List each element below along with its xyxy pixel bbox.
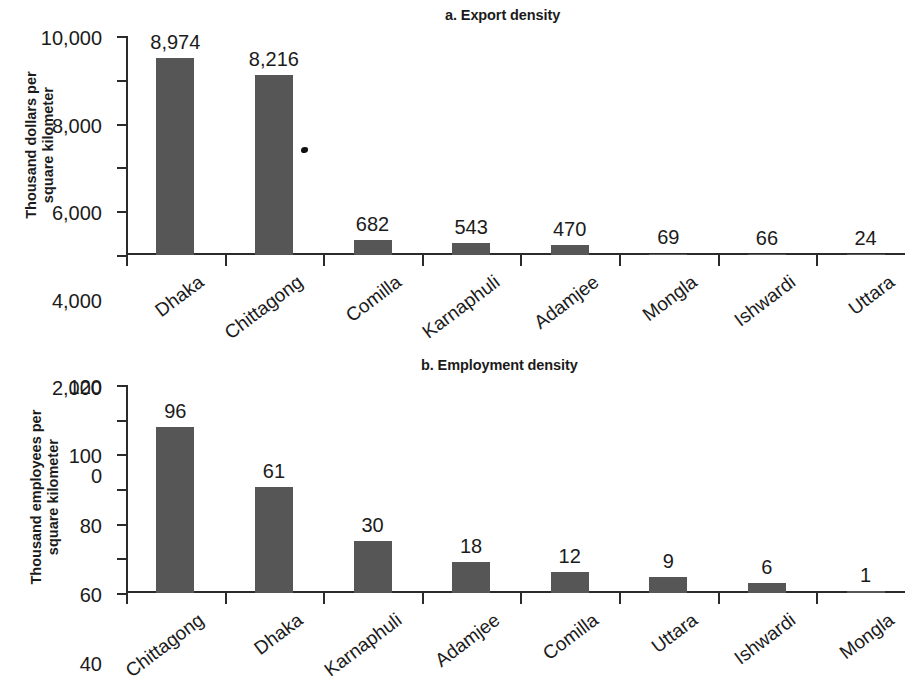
bar [255,75,293,255]
x-tick [422,255,424,266]
x-tick [422,593,424,604]
chart-panel-export-density: a. Export density Thousand dollars per s… [0,0,911,345]
x-tick [520,255,522,266]
bar-value-label: 8,974 [150,31,200,54]
y-tick: 60 [117,489,126,491]
print-artifact-speck [301,147,308,153]
y-tick: 6,000 [117,124,126,126]
panel-a-title: a. Export density [445,7,560,23]
panel-b-y-axis-caption-line1: Thousand employees per [28,410,44,585]
y-tick-label: 8,000 [52,114,102,137]
y-tick: 4,000 [117,167,126,169]
y-tick: 2,000 [117,211,126,213]
x-tick [323,255,325,266]
x-category-label: Karnaphuli [419,271,505,343]
bar [255,487,293,593]
x-category-label: Uttara [647,609,702,658]
bar-value-label: 543 [454,216,487,239]
y-tick-label: 80 [80,514,102,537]
panel-b-y-axis-caption: Thousand employees per square kilometer [28,387,62,607]
y-tick: 0 [117,593,126,595]
x-tick [619,255,621,266]
y-tick: 120 [117,385,126,387]
bar [452,562,490,593]
bar [156,427,194,593]
x-tick [718,255,720,266]
x-tick [225,593,227,604]
y-tick: 8,000 [117,80,126,82]
x-category-label: Mongla [836,609,899,664]
bar-value-label: 470 [553,218,586,241]
bar-value-label: 6 [761,556,772,579]
y-tick: 20 [117,558,126,560]
y-tick: 80 [117,454,126,456]
bar-value-label: 682 [356,213,389,236]
x-category-label: Comilla [539,609,603,665]
panel-b-plot-area: 020406080100120 9661301812961 Chittagong… [126,385,905,593]
bar [847,254,885,256]
panel-b-y-axis-line [126,385,128,593]
bar [649,254,687,256]
x-category-label: Karnaphuli [320,609,406,681]
x-tick [225,255,227,266]
x-tick [126,593,128,604]
bar-value-label: 24 [854,227,876,250]
y-tick-label: 10,000 [41,27,102,50]
x-tick [816,255,818,266]
bar-value-label: 8,216 [249,48,299,71]
y-tick-label: 6,000 [52,202,102,225]
bar-value-label: 1 [860,564,871,587]
y-tick: 100 [117,420,126,422]
bar [748,254,786,256]
y-tick: 0 [117,255,126,257]
x-tick [718,593,720,604]
bar [452,243,490,255]
bar [649,577,687,593]
bar [354,541,392,593]
bar [551,245,589,255]
y-tick-label: 60 [80,584,102,607]
x-tick [323,593,325,604]
panel-a-y-axis-caption-line2: square kilometer [40,87,56,203]
bar [847,591,885,593]
bar-value-label: 96 [164,400,186,423]
bar [354,240,392,255]
x-category-label: Ishwardi [730,271,800,331]
x-category-label: Adamjee [431,609,504,672]
panel-a-x-axis-line [126,253,905,255]
bar-value-label: 9 [663,550,674,573]
chart-panel-employment-density: b. Employment density 020406080100120 96… [0,345,911,682]
panel-b-title: b. Employment density [421,357,578,373]
x-tick [520,593,522,604]
y-tick-label: 120 [69,376,102,399]
panel-a-y-axis-caption-line1: Thousand dollars per [23,71,39,218]
bar-value-label: 30 [361,514,383,537]
bar-value-label: 61 [263,460,285,483]
bar [156,58,194,255]
x-tick [816,593,818,604]
x-category-label: Chittagong [122,609,209,682]
x-category-label: Ishwardi [730,609,800,669]
x-category-label: Dhaka [250,609,307,660]
panel-a-plot-area: 02,0004,0006,0008,00010,000 8,9748,21668… [126,36,905,255]
bar-value-label: 69 [657,226,679,249]
bar-value-label: 12 [559,545,581,568]
x-tick [619,593,621,604]
x-category-label: Comilla [342,271,406,327]
panel-a-y-axis-line [126,36,128,255]
panel-b-x-axis-line [126,591,905,593]
x-category-label: Dhaka [151,271,208,322]
x-tick [126,255,128,266]
bar [748,583,786,593]
x-category-label: Adamjee [530,271,603,334]
bar [551,572,589,593]
x-category-label: Uttara [844,271,899,320]
y-tick: 40 [117,524,126,526]
y-tick-label: 4,000 [52,289,102,312]
y-tick: 10,000 [117,36,126,38]
y-tick-label: 100 [69,445,102,468]
panel-b-y-axis-caption-line2: square kilometer [45,439,61,555]
y-tick-label: 40 [80,653,102,676]
bar-value-label: 18 [460,535,482,558]
x-category-label: Mongla [639,271,702,326]
